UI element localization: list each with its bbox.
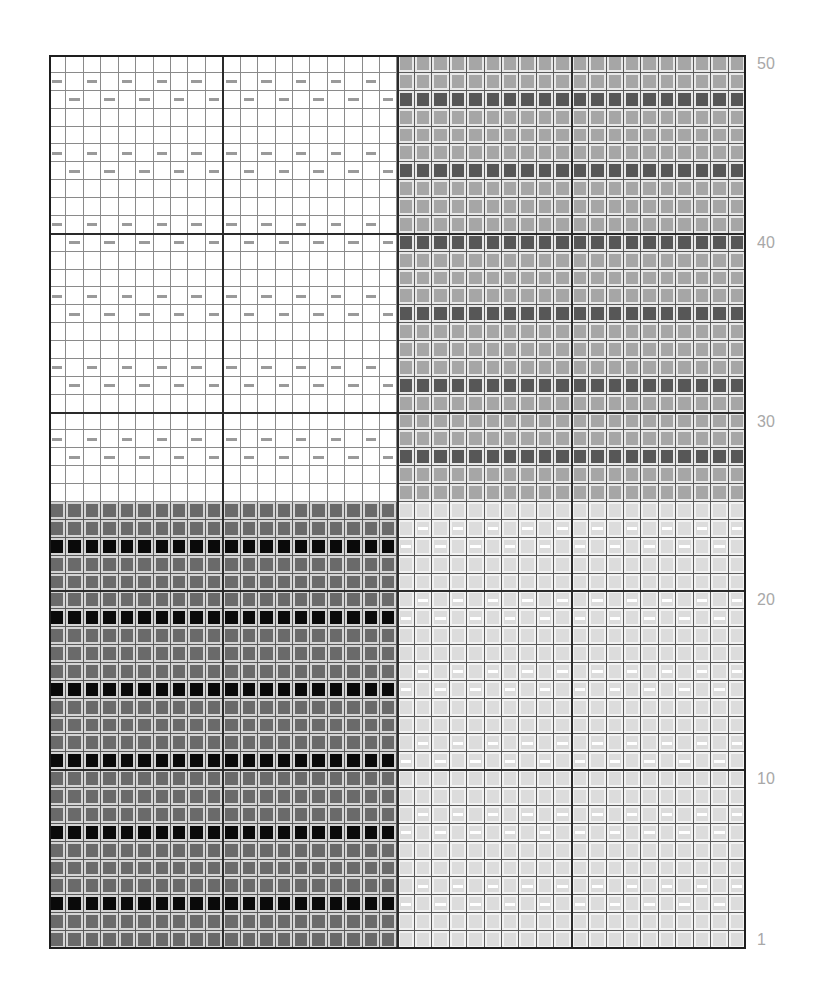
chart-cell [136,413,153,431]
chart-cell [188,270,205,288]
chart-cell [136,556,153,574]
chart-cell [119,413,136,431]
chart-cell [223,323,240,341]
chart-cell [154,127,171,145]
chart-cell [66,556,83,574]
chart-cell [276,591,293,609]
chart-cell [450,234,467,252]
chart-cell [641,752,658,770]
purl-dash-symbol-icon [122,80,132,83]
chart-cell [276,645,293,663]
chart-cell [537,895,554,913]
chart-cell [467,73,484,91]
chart-cell [589,359,606,377]
chart-cell [415,287,432,305]
chart-cell [119,127,136,145]
purl-dash-symbol-icon [209,456,219,459]
chart-cell [310,323,327,341]
chart-cell [641,645,658,663]
white-dash-symbol-icon [732,885,742,888]
chart-cell [432,931,449,949]
chart-cell [624,341,641,359]
white-dash-symbol-icon [714,545,724,548]
chart-cell [519,234,536,252]
chart-cell [66,323,83,341]
chart-cell [136,430,153,448]
chart-cell [258,788,275,806]
chart-cell [154,180,171,198]
chart-cell [502,162,519,180]
chart-cell [554,574,571,592]
chart-cell [154,395,171,413]
chart-cell [223,180,240,198]
chart-cell [676,127,693,145]
chart-cell [136,752,153,770]
chart-cell [66,109,83,127]
chart-cell [101,323,118,341]
chart-cell [258,770,275,788]
chart-cell [415,323,432,341]
chart-cell [188,287,205,305]
chart-cell [345,252,362,270]
chart-cell [659,127,676,145]
chart-cell [589,323,606,341]
chart-cell [171,788,188,806]
white-dash-symbol-icon [557,813,567,816]
chart-cell [119,752,136,770]
chart-cell [711,520,728,538]
chart-cell [554,448,571,466]
purl-dash-symbol-icon [348,456,358,459]
chart-cell [206,842,223,860]
chart-cell [589,556,606,574]
chart-cell [554,377,571,395]
chart-cell [450,734,467,752]
chart-cell [676,860,693,878]
chart-cell [398,752,415,770]
chart-cell [450,681,467,699]
chart-cell [293,663,310,681]
chart-cell [136,377,153,395]
chart-cell [624,55,641,73]
chart-cell [258,198,275,216]
purl-dash-symbol-icon [52,80,62,83]
chart-cell [450,842,467,860]
purl-dash-symbol-icon [87,366,97,369]
chart-cell [363,413,380,431]
chart-cell [676,162,693,180]
chart-cell [572,895,589,913]
chart-cell [607,252,624,270]
chart-cell [345,734,362,752]
chart-cell [519,341,536,359]
chart-cell [188,681,205,699]
white-dash-symbol-icon [522,813,532,816]
chart-cell [432,198,449,216]
chart-cell [729,484,746,502]
chart-cell [676,448,693,466]
chart-cell [641,895,658,913]
chart-cell [66,770,83,788]
purl-dash-symbol-icon [226,366,236,369]
chart-cell [328,663,345,681]
chart-cell [415,180,432,198]
chart-cell [554,770,571,788]
chart-cell [415,55,432,73]
chart-cell [101,91,118,109]
chart-cell [101,627,118,645]
chart-cell [502,359,519,377]
chart-cell [519,502,536,520]
purl-dash-symbol-icon [174,313,184,316]
chart-cell [188,198,205,216]
chart-cell [241,270,258,288]
chart-cell [589,806,606,824]
chart-cell [206,717,223,735]
chart-cell [119,645,136,663]
chart-cell [293,734,310,752]
chart-cell [119,770,136,788]
white-dash-symbol-icon [627,885,637,888]
chart-cell [485,556,502,574]
chart-cell [328,55,345,73]
purl-dash-symbol-icon [157,223,167,226]
chart-cell [694,877,711,895]
chart-cell [66,305,83,323]
chart-cell [415,109,432,127]
